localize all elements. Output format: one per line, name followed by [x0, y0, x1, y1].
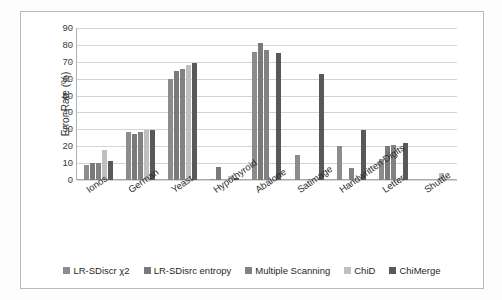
bar	[337, 146, 342, 180]
y-tick-mark	[70, 112, 73, 113]
bar-group	[288, 28, 330, 180]
legend-item[interactable]: LR-SDisrc entropy	[144, 265, 232, 276]
bar-groups	[77, 28, 457, 180]
legend-swatch-icon	[245, 267, 252, 274]
legend-item[interactable]: ChiMerge	[389, 265, 440, 276]
bar	[180, 69, 185, 180]
bar	[264, 50, 269, 180]
x-label-cell: German	[119, 182, 161, 238]
y-tick-mark	[70, 163, 73, 164]
chart-legend: LR-SDiscr χ2LR-SDisrc entropyMultiple Sc…	[21, 265, 483, 276]
legend-label: Multiple Scanning	[255, 265, 330, 276]
bar	[192, 63, 197, 180]
chart-frame: Error Rate (%) 9080706050403020100 Ionos…	[20, 11, 484, 289]
bar	[174, 71, 179, 180]
chart-screenshot: Error Rate (%) 9080706050403020100 Ionos…	[0, 0, 502, 300]
legend-label: LR-SDiscr χ2	[73, 265, 129, 276]
bar-group	[161, 28, 203, 180]
legend-label: ChiD	[354, 265, 375, 276]
legend-swatch-icon	[144, 267, 151, 274]
x-label-cell: Letter	[373, 182, 415, 238]
bar	[108, 161, 113, 180]
bar-group	[204, 28, 246, 180]
legend-item[interactable]: Multiple Scanning	[245, 265, 330, 276]
bar-group	[415, 28, 457, 180]
bar	[126, 132, 131, 180]
y-tick-mark	[70, 146, 73, 147]
bar	[132, 134, 137, 180]
legend-item[interactable]: ChiD	[344, 265, 375, 276]
y-tick-mark	[70, 62, 73, 63]
bar-group	[119, 28, 161, 180]
legend-swatch-icon	[344, 267, 351, 274]
y-tick-mark	[70, 79, 73, 80]
legend-label: LR-SDisrc entropy	[154, 265, 232, 276]
bar-group	[77, 28, 119, 180]
bar	[186, 65, 191, 180]
y-tick-mark	[70, 28, 73, 29]
x-label-cell: Shuttle	[415, 182, 457, 238]
bar	[84, 165, 89, 180]
x-label-cell: Yeast	[161, 182, 203, 238]
legend-item[interactable]: LR-SDiscr χ2	[63, 265, 129, 276]
bar	[295, 155, 300, 180]
legend-swatch-icon	[389, 267, 396, 274]
x-label-cell: Hypothyroid	[204, 182, 246, 238]
x-label-cell: Ionos	[77, 182, 119, 238]
legend-label: ChiMerge	[399, 265, 440, 276]
legend-swatch-icon	[63, 267, 70, 274]
y-tick-mark	[70, 129, 73, 130]
bar	[210, 179, 215, 180]
plot-area	[77, 28, 457, 180]
bar	[319, 74, 324, 180]
bar	[168, 79, 173, 180]
x-label-cell: Abalone	[246, 182, 288, 238]
x-label-cell: Satimage	[288, 182, 330, 238]
bar	[138, 132, 143, 180]
y-tick-mark	[70, 96, 73, 97]
bar	[276, 53, 281, 180]
bar-group	[330, 28, 372, 180]
y-tick-mark	[70, 45, 73, 46]
x-axis-labels: IonosGermanYeastHypothyroidAbaloneSatima…	[77, 182, 457, 238]
y-axis-ticks: 9080706050403020100	[47, 28, 73, 180]
x-label-cell: Handwritten Digits	[330, 182, 372, 238]
y-tick-mark	[70, 180, 73, 181]
bar	[258, 43, 263, 180]
